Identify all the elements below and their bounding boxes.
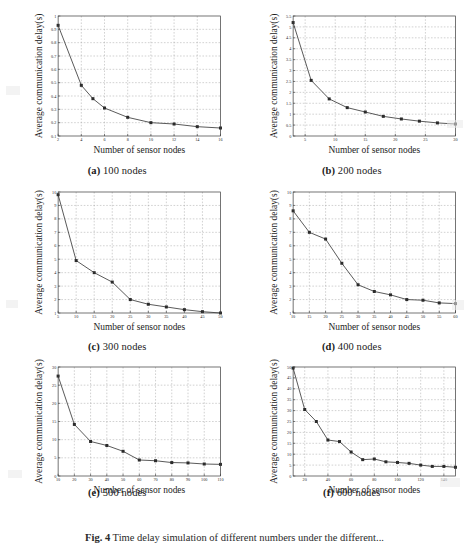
svg-text:0.4: 0.4 [51,94,57,99]
y-axis-title: Average communication delay(s) [269,14,280,139]
svg-text:30: 30 [88,477,92,482]
svg-text:1: 1 [289,112,291,117]
svg-text:2.5: 2.5 [286,79,291,84]
svg-text:100: 100 [394,477,400,482]
chart-panel-b: 5101520253000.511.522.533.544.555.5Numbe… [235,0,469,180]
svg-text:6: 6 [289,243,291,248]
x-axis-title: Number of sensor nodes [328,322,420,332]
svg-text:20: 20 [287,430,291,435]
svg-text:20: 20 [323,314,327,319]
svg-text:12: 12 [172,137,176,142]
svg-text:45: 45 [287,376,291,381]
svg-text:100: 100 [201,477,207,482]
x-axis-title: Number of sensor nodes [328,145,420,155]
figure-caption-text: Time delay simulation of different numbe… [113,532,384,543]
svg-text:50: 50 [218,314,222,319]
svg-text:30: 30 [355,314,359,319]
svg-text:7: 7 [289,230,291,235]
svg-text:8: 8 [289,216,291,221]
svg-text:5: 5 [289,463,291,468]
svg-text:2: 2 [57,137,59,142]
subcaption-text-b: 200 nodes [338,165,382,176]
subcaption-d: (d) 400 nodes [235,341,469,352]
svg-text:0.5: 0.5 [286,123,291,128]
svg-text:10: 10 [333,137,337,142]
svg-text:4: 4 [289,46,292,51]
svg-text:3: 3 [289,284,291,289]
plot-wrapper-b: 5101520253000.511.522.533.544.555.5Numbe… [235,0,469,180]
chart-panel-f: 2040608010012014005101520253035404550Num… [235,355,469,518]
svg-text:6: 6 [103,137,105,142]
plot-background [58,16,220,136]
svg-text:2: 2 [289,297,291,302]
svg-text:20: 20 [52,401,56,406]
svg-text:5: 5 [304,137,306,142]
svg-text:30: 30 [52,365,56,370]
subcaption-text-c: 300 nodes [103,341,147,352]
subcaption-tag-a: (a) [88,165,101,176]
subcaption-b: (b) 200 nodes [235,165,469,176]
svg-text:40: 40 [325,477,329,482]
svg-text:90: 90 [186,477,190,482]
svg-text:30: 30 [287,408,291,413]
svg-text:35: 35 [287,397,291,402]
svg-text:4: 4 [289,270,292,275]
plot-b: 5101520253000.511.522.533.544.555.5Numbe… [235,0,469,180]
svg-text:0.7: 0.7 [51,54,56,59]
svg-text:0.3: 0.3 [51,107,56,112]
scan-artifact-0 [6,86,20,95]
subcaption-text-f: 600 nodes [337,487,381,498]
svg-text:5: 5 [54,455,56,460]
svg-text:110: 110 [217,477,223,482]
svg-text:40: 40 [105,477,109,482]
subcaption-tag-b: (b) [322,165,335,176]
scan-artifact-2 [6,300,18,308]
subcaption-f: (f) 600 nodes [235,487,469,498]
svg-text:15: 15 [307,314,311,319]
y-axis-title: Average communication delay(s) [269,190,280,315]
svg-text:120: 120 [417,477,423,482]
svg-text:10: 10 [287,190,291,195]
x-axis-title: Number of sensor nodes [93,145,185,155]
svg-text:14: 14 [195,137,200,142]
svg-text:4.5: 4.5 [286,35,291,40]
svg-text:10: 10 [52,190,56,195]
svg-text:20: 20 [393,137,397,142]
svg-text:8: 8 [54,216,56,221]
svg-text:70: 70 [153,477,157,482]
svg-text:55: 55 [437,314,441,319]
svg-text:60: 60 [137,477,141,482]
svg-text:4: 4 [54,270,57,275]
svg-text:45: 45 [404,314,408,319]
svg-text:3: 3 [289,68,291,73]
svg-text:10: 10 [56,477,60,482]
svg-text:3: 3 [54,284,56,289]
subcaption-text-e: 500 nodes [103,487,147,498]
svg-text:9: 9 [54,203,56,208]
figure-caption: Fig. 4 Time delay simulation of differen… [0,532,469,545]
svg-text:20: 20 [110,314,114,319]
subcaption-tag-c: (c) [88,341,100,352]
svg-text:1: 1 [54,14,56,19]
svg-text:9: 9 [289,203,291,208]
y-axis-title: Average communication delay(s) [269,359,280,484]
subcaption-tag-d: (d) [322,341,335,352]
svg-text:7: 7 [54,230,56,235]
svg-text:0.5: 0.5 [51,80,56,85]
svg-text:15: 15 [287,441,291,446]
plot-c: 510152025303540455012345678910Number of … [0,180,235,355]
svg-text:15: 15 [92,314,96,319]
svg-text:0: 0 [54,474,56,479]
svg-text:0.2: 0.2 [51,120,56,125]
svg-text:60: 60 [349,477,353,482]
svg-text:16: 16 [218,137,222,142]
svg-text:15: 15 [363,137,367,142]
svg-text:5.5: 5.5 [286,14,291,19]
subcaption-text-d: 400 nodes [338,341,382,352]
scan-artifact-3 [452,300,464,310]
svg-text:80: 80 [170,477,174,482]
subcaption-a: (a) 100 nodes [0,165,235,176]
svg-text:20: 20 [302,477,306,482]
svg-text:40: 40 [388,314,392,319]
